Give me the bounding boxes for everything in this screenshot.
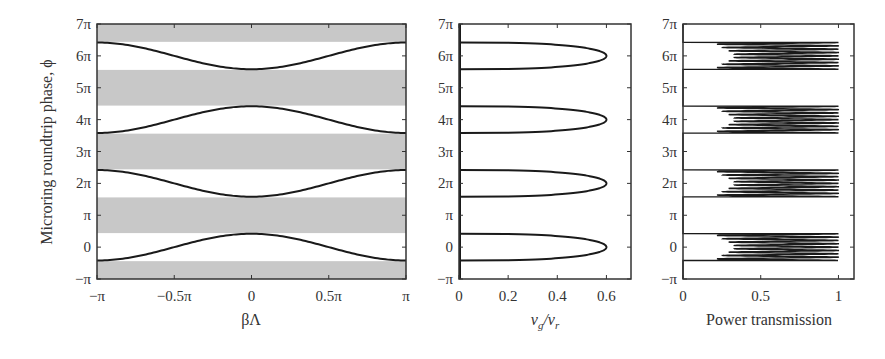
y-tick-label: 2π bbox=[438, 175, 454, 191]
y-tick-label: 4π bbox=[438, 112, 454, 128]
x-tick-label: 0.5 bbox=[751, 288, 770, 304]
panel-c-xlabel: Power transmission bbox=[706, 311, 832, 328]
panel-b-xlabel: νg/νr bbox=[531, 311, 560, 331]
band-gap-region bbox=[97, 197, 406, 233]
group-velocity-panel: −π0π2π3π4π5π6π7π00.20.40.6 bbox=[437, 16, 631, 304]
x-tick-label: 0.5π bbox=[316, 288, 343, 304]
x-tick-label: 0.2 bbox=[499, 288, 518, 304]
y-tick-label: π bbox=[445, 207, 453, 223]
transmission-curve bbox=[683, 24, 838, 279]
figure: Microring roundtrip phase, ϕ −π0π2π3π4π5… bbox=[0, 0, 885, 359]
y-tick-label: 5π bbox=[662, 80, 678, 96]
y-tick-label: 3π bbox=[438, 144, 454, 160]
x-tick-label: −0.5π bbox=[157, 288, 192, 304]
y-tick-label: 2π bbox=[76, 175, 92, 191]
y-tick-label: 4π bbox=[76, 112, 92, 128]
y-tick-label: 7π bbox=[438, 16, 454, 32]
x-tick-label: 0.6 bbox=[597, 288, 616, 304]
dispersion-curve bbox=[97, 106, 406, 133]
ylabel: Microring roundtrip phase, ϕ bbox=[38, 59, 56, 244]
y-tick-label: 3π bbox=[662, 144, 678, 160]
group-velocity-lobe bbox=[459, 42, 606, 69]
panel-a-xlabel: βΛ bbox=[241, 311, 261, 329]
y-tick-label: 6π bbox=[662, 48, 678, 64]
x-tick-label: −π bbox=[89, 288, 105, 304]
dispersion-curve bbox=[97, 234, 406, 261]
y-tick-label: 7π bbox=[662, 16, 678, 32]
band-gap-region bbox=[97, 70, 406, 106]
band-diagram-panel: −π0π2π3π4π5π6π7π−π−0.5π00.5ππ bbox=[75, 16, 410, 304]
y-tick-label: 0 bbox=[446, 239, 454, 255]
y-tick-label: −π bbox=[75, 271, 91, 287]
x-tick-label: 0 bbox=[455, 288, 463, 304]
group-velocity-lobe bbox=[459, 106, 606, 133]
y-tick-label: 2π bbox=[662, 175, 678, 191]
y-tick-label: 6π bbox=[76, 48, 92, 64]
dispersion-curve bbox=[97, 170, 406, 197]
y-axis-title: Microring roundtrip phase, ϕ bbox=[38, 59, 56, 244]
group-velocity-lobe bbox=[459, 170, 606, 197]
y-tick-label: 0 bbox=[670, 239, 678, 255]
x-tick-label: π bbox=[402, 288, 410, 304]
x-tick-label: 1 bbox=[835, 288, 843, 304]
y-tick-label: 3π bbox=[76, 144, 92, 160]
y-tick-label: 6π bbox=[438, 48, 454, 64]
y-tick-label: −π bbox=[661, 271, 677, 287]
power-transmission-panel: −π0π2π3π4π5π6π7π00.51 bbox=[661, 16, 854, 304]
y-tick-label: −π bbox=[437, 271, 453, 287]
plot-frame bbox=[459, 24, 631, 279]
x-tick-label: 0 bbox=[679, 288, 687, 304]
y-tick-label: 5π bbox=[76, 80, 92, 96]
y-tick-label: π bbox=[83, 207, 91, 223]
band-gap-region bbox=[97, 134, 406, 170]
dispersion-curve bbox=[97, 42, 406, 69]
group-velocity-lobe bbox=[459, 234, 606, 261]
y-tick-label: 5π bbox=[438, 80, 454, 96]
y-tick-label: 0 bbox=[84, 239, 92, 255]
x-tick-label: 0.4 bbox=[548, 288, 567, 304]
x-tick-label: 0 bbox=[248, 288, 256, 304]
y-tick-label: 4π bbox=[662, 112, 678, 128]
y-tick-label: 7π bbox=[76, 16, 92, 32]
y-tick-label: π bbox=[669, 207, 677, 223]
